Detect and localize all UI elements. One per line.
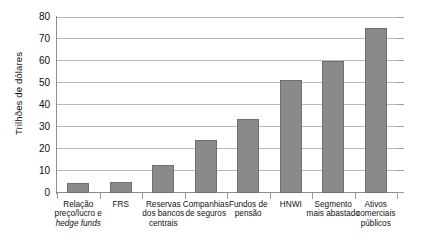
category-tick — [227, 193, 228, 199]
y-tick-mark-30 — [397, 126, 404, 127]
gridline-60 — [57, 60, 397, 61]
y-tick-mark-20 — [397, 148, 404, 149]
y-tick-label-80: 80 — [22, 12, 50, 22]
y-tick-mark-0 — [397, 192, 404, 193]
y-tick-label-60: 60 — [22, 56, 50, 66]
gridline-20 — [57, 148, 397, 149]
y-tick-label-70: 70 — [22, 34, 50, 44]
y-tick-label-0: 0 — [22, 188, 50, 198]
bar — [195, 140, 217, 193]
y-tick-label-40: 40 — [22, 100, 50, 110]
y-tick-mark-70 — [397, 38, 404, 39]
bar-chart: Trilhões de dólares 01020304050607080 Re… — [0, 0, 426, 240]
gridline-50 — [57, 82, 397, 83]
bar — [152, 165, 174, 192]
category-tick-edge — [57, 193, 58, 199]
y-tick-label-50: 50 — [22, 78, 50, 88]
bar — [67, 183, 89, 193]
y-tick-label-30: 30 — [22, 122, 50, 132]
gridline-30 — [57, 126, 397, 127]
category-tick — [185, 193, 186, 199]
y-axis-title: Trilhões de dólares — [13, 24, 24, 164]
category-tick — [312, 193, 313, 199]
category-tick-edge — [397, 193, 398, 199]
gridline-40 — [57, 104, 397, 105]
category-tick — [270, 193, 271, 199]
bar — [322, 61, 344, 193]
y-tick-mark-80 — [397, 17, 404, 18]
y-tick-label-10: 10 — [22, 166, 50, 176]
y-tick-mark-50 — [397, 82, 404, 83]
gridline-10 — [57, 170, 397, 171]
y-tick-mark-10 — [397, 170, 404, 171]
gridline-80 — [57, 17, 397, 18]
bar — [280, 80, 302, 193]
y-tick-label-20: 20 — [22, 144, 50, 154]
bar — [365, 28, 387, 193]
bar — [237, 119, 259, 192]
category-label: Ativoscomerciaispúblicos — [349, 200, 404, 228]
category-tick — [100, 193, 101, 199]
category-tick — [142, 193, 143, 199]
bar — [110, 182, 132, 193]
gridline-70 — [57, 38, 397, 39]
category-tick — [355, 193, 356, 199]
y-tick-mark-40 — [397, 104, 404, 105]
y-tick-mark-60 — [397, 60, 404, 61]
plot-area — [57, 17, 397, 193]
